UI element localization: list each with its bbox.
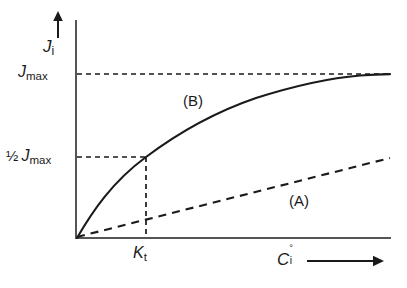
jmax-tick-label: Jmax xyxy=(18,64,48,80)
kt-subscript: t xyxy=(144,251,147,263)
half-jmax-tick-label: ½ Jmax xyxy=(6,148,51,164)
curve-b-carrier-mediated xyxy=(77,74,390,238)
y-axis-up-arrow-icon xyxy=(53,11,63,38)
transport-kinetics-figure: Ji Jmax ½ Jmax Kt C°i (B) (A) xyxy=(0,0,407,288)
x-axis-label-subscript: i xyxy=(290,255,292,266)
y-axis-label-subscript: i xyxy=(52,44,55,58)
plot-canvas xyxy=(0,0,407,288)
curve-a-callout: (A) xyxy=(289,193,309,208)
kt-symbol: K xyxy=(133,244,144,261)
jmax-symbol: J xyxy=(18,63,26,80)
kt-tick-label: Kt xyxy=(133,245,147,261)
y-axis-label: Ji xyxy=(43,38,54,55)
x-axis-label-superscript: ° xyxy=(289,244,293,253)
half-fraction: ½ xyxy=(6,148,18,164)
y-axis-label-symbol: J xyxy=(43,37,52,56)
x-axis-label-affixes: °i xyxy=(289,248,298,265)
curve-a-diffusion xyxy=(77,158,390,237)
jmax-subscript: max xyxy=(26,70,48,82)
half-jmax-subscript: max xyxy=(29,154,51,166)
x-axis-label: C°i xyxy=(277,248,298,268)
x-axis-right-arrow-icon xyxy=(307,256,384,266)
x-axis-label-symbol: C xyxy=(277,250,289,269)
curve-b-callout: (B) xyxy=(183,93,203,108)
